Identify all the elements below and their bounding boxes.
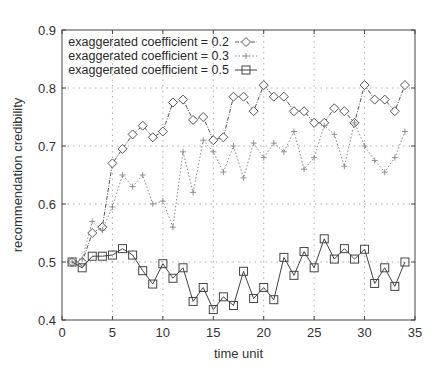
plus-marker — [230, 143, 236, 149]
legend: exaggerated coefficient = 0.2exaggerated… — [68, 35, 257, 77]
plus-marker — [150, 201, 156, 207]
plus-marker — [402, 129, 408, 135]
diamond-marker — [229, 92, 238, 101]
plus-marker — [89, 218, 95, 224]
plus-marker — [372, 158, 378, 164]
plus-marker — [291, 129, 297, 135]
y-tick-label: 0.8 — [38, 81, 56, 96]
x-axis-title: time unit — [214, 346, 264, 361]
x-tick-label: 20 — [256, 325, 270, 340]
diamond-marker — [199, 113, 208, 122]
line-chart: 051015202530350.40.50.60.70.80.9 exagger… — [0, 0, 443, 380]
plus-marker — [220, 169, 226, 175]
diamond-marker — [360, 81, 369, 90]
x-tick-label: 25 — [307, 325, 321, 340]
x-tick-label: 35 — [408, 325, 422, 340]
plus-marker — [109, 204, 115, 210]
x-tick-label: 30 — [357, 325, 371, 340]
legend-label: exaggerated coefficient = 0.3 — [68, 49, 229, 63]
plus-marker — [170, 224, 176, 230]
diamond-marker — [279, 92, 288, 101]
diamond-marker — [88, 229, 97, 238]
x-tick-label: 10 — [156, 325, 170, 340]
series-line — [72, 123, 405, 262]
diamond-marker — [340, 107, 349, 116]
plus-marker — [261, 155, 267, 161]
diamond-marker — [239, 92, 248, 101]
diamond-marker — [370, 95, 379, 104]
plus-marker — [120, 172, 126, 178]
plus-marker — [180, 149, 186, 155]
y-tick-label: 0.6 — [38, 197, 56, 212]
x-tick-label: 0 — [58, 325, 65, 340]
diamond-marker — [108, 159, 117, 168]
plus-marker — [341, 163, 347, 169]
y-tick-label: 0.7 — [38, 139, 56, 154]
plus-marker — [251, 140, 257, 146]
diamond-marker — [128, 130, 137, 139]
legend-label: exaggerated coefficient = 0.2 — [68, 35, 229, 49]
y-tick-label: 0.9 — [38, 23, 56, 38]
plus-marker — [160, 198, 166, 204]
diamond-marker — [158, 127, 167, 136]
x-tick-label: 5 — [109, 325, 116, 340]
plus-marker — [190, 189, 196, 195]
square-marker — [401, 258, 409, 266]
diamond-marker — [118, 144, 127, 153]
legend-label: exaggerated coefficient = 0.5 — [68, 63, 229, 77]
diamond-marker — [242, 38, 251, 47]
plus-marker — [362, 143, 368, 149]
plus-marker — [140, 172, 146, 178]
diamond-marker — [219, 133, 228, 142]
diamond-marker — [168, 98, 177, 107]
diamond-marker — [330, 104, 339, 113]
diamond-marker — [400, 81, 409, 90]
diamond-marker — [179, 95, 188, 104]
plus-marker — [281, 149, 287, 155]
plus-marker — [271, 140, 277, 146]
series-layer — [68, 81, 410, 314]
plus-marker — [241, 175, 247, 181]
series-3 — [68, 235, 409, 314]
series-1 — [68, 81, 410, 267]
y-axis-title: recommendation credibility — [10, 97, 25, 252]
series-line — [72, 85, 405, 262]
diamond-marker — [209, 136, 218, 145]
series-line — [72, 239, 405, 310]
plus-marker — [210, 149, 216, 155]
diamond-marker — [189, 115, 198, 124]
x-tick-label: 15 — [206, 325, 220, 340]
y-tick-label: 0.5 — [38, 255, 56, 270]
diamond-marker — [249, 107, 258, 116]
plus-marker — [243, 53, 249, 59]
y-tick-label: 0.4 — [38, 313, 56, 328]
series-2 — [69, 120, 408, 265]
diamond-marker — [289, 107, 298, 116]
